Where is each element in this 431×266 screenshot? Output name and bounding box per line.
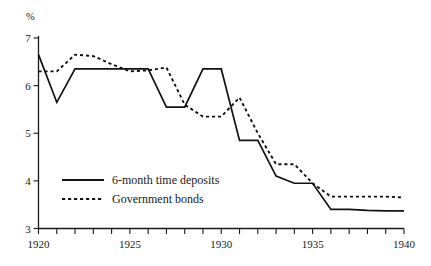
y-axis-tick-label: 6	[25, 80, 31, 92]
x-axis-tick-label: 1920	[28, 238, 51, 250]
y-axis-tick-label: 4	[25, 175, 31, 187]
legend-label-government-bonds: Government bonds	[112, 192, 204, 206]
series-line-6-month-time-deposits	[39, 55, 405, 211]
legend-label-6-month-time-deposits: 6-month time deposits	[112, 173, 220, 187]
series-line-government-bonds	[39, 55, 405, 198]
x-axis-tick-label: 1930	[210, 238, 233, 250]
y-axis-unit-label-text: %	[26, 11, 35, 22]
chart-canvas: % 34567 19201925193019351940 6-month tim…	[0, 0, 431, 266]
x-axis-tick-marks	[39, 229, 405, 235]
y-axis-unit-label: %	[26, 11, 35, 22]
y-axis-tick-label: 5	[25, 127, 31, 139]
x-axis-tick-label: 1935	[302, 238, 325, 250]
y-axis-tick-label: 7	[25, 32, 31, 44]
interest-rate-line-chart: % 34567 19201925193019351940 6-month tim…	[0, 0, 431, 266]
y-axis-tick-label: 3	[25, 223, 31, 235]
y-axis-tick-marks	[34, 38, 39, 229]
y-axis-tick-labels: 34567	[25, 32, 31, 235]
x-axis-tick-label: 1940	[393, 238, 416, 250]
x-axis-tick-label: 1925	[119, 238, 142, 250]
x-axis-tick-labels: 19201925193019351940	[28, 238, 416, 250]
chart-legend: 6-month time deposits Government bonds	[62, 173, 220, 206]
